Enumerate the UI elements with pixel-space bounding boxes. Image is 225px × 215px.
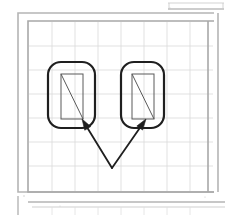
scan-speck <box>204 196 205 197</box>
figure-canvas: Scanned technical drawing figure <box>0 0 225 215</box>
scan-speck <box>60 206 61 207</box>
scan-speck <box>169 7 170 8</box>
scan-speck <box>23 195 24 196</box>
scanned-figure <box>0 0 225 215</box>
